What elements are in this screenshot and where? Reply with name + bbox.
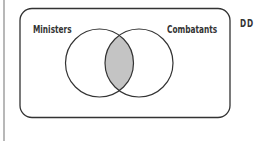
venn-diagram <box>0 0 275 141</box>
label-ministers: Ministers <box>33 24 72 35</box>
label-universe: DD <box>240 18 254 29</box>
label-combatants: Combatants <box>167 24 217 35</box>
